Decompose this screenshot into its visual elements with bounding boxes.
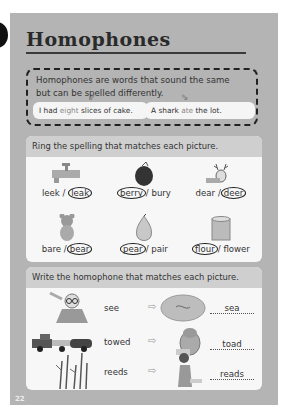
ringed-answer[interactable]: leak bbox=[68, 187, 92, 199]
pear-icon bbox=[129, 214, 159, 242]
homophone-row: see ⇨ sea bbox=[26, 291, 262, 327]
arrow-right-icon: ⇨ bbox=[148, 301, 156, 312]
ringed-answer[interactable]: flour bbox=[192, 243, 218, 255]
example-sentence: A shark ate the lot. bbox=[145, 102, 255, 119]
title-underline bbox=[26, 52, 246, 54]
sea-icon bbox=[160, 293, 206, 323]
given-word: see bbox=[104, 303, 119, 313]
highlighted-word: eight bbox=[60, 106, 79, 115]
ringed-answer[interactable]: berry bbox=[117, 187, 146, 199]
page-tab-marker bbox=[0, 22, 8, 48]
tap-icon bbox=[50, 162, 84, 186]
answer-field[interactable]: reads bbox=[210, 369, 254, 380]
pointer-arrow-icon: ⇘ bbox=[181, 92, 189, 102]
ring-item: dear /deer bbox=[182, 162, 260, 198]
pointer-arrow-icon: ⇙ bbox=[88, 92, 96, 102]
definition-text: Homophones are words that sound the same… bbox=[36, 74, 236, 100]
ring-item: flour/ flower bbox=[182, 214, 260, 254]
given-word: towed bbox=[104, 337, 130, 347]
berry-icon bbox=[129, 162, 159, 186]
page-number: 22 bbox=[15, 395, 25, 403]
exercise-instruction: Write the homophone that matches each pi… bbox=[26, 267, 262, 288]
example-sentence: I had eight slices of cake. bbox=[33, 102, 148, 119]
girl-reading-icon bbox=[174, 351, 204, 387]
reeds-icon bbox=[54, 351, 94, 389]
ringed-answer[interactable]: pear bbox=[120, 243, 146, 255]
exercise-instruction: Ring the spelling that matches each pict… bbox=[26, 136, 262, 157]
ring-item: leek / leak bbox=[28, 162, 106, 198]
arrow-right-icon: ⇨ bbox=[148, 335, 156, 346]
definition-box: Homophones are words that sound the same… bbox=[26, 68, 258, 126]
tow-truck-icon bbox=[30, 331, 96, 353]
highlighted-word: ate bbox=[181, 106, 193, 115]
homophone-row: reeds ⇨ reads bbox=[26, 355, 262, 390]
deer-icon bbox=[204, 162, 238, 186]
answer-field[interactable]: toad bbox=[210, 339, 254, 350]
ring-item: bare /bear bbox=[28, 214, 106, 254]
man-seeing-icon bbox=[48, 291, 88, 323]
given-word: reeds bbox=[104, 367, 128, 377]
ringed-answer[interactable]: bear bbox=[67, 243, 93, 255]
answer-field[interactable]: sea bbox=[210, 303, 254, 314]
arrow-right-icon: ⇨ bbox=[148, 365, 156, 376]
write-homophone-exercise: Write the homophone that matches each pi… bbox=[26, 267, 262, 390]
ringed-answer[interactable]: deer bbox=[221, 187, 247, 199]
ring-item: pear/ pair bbox=[105, 214, 183, 254]
ring-spelling-exercise: Ring the spelling that matches each pict… bbox=[26, 136, 262, 262]
teddy-bear-icon bbox=[52, 214, 82, 242]
page-title: Homophones bbox=[26, 28, 171, 50]
flour-bag-icon bbox=[206, 214, 236, 242]
ring-item: berry/ bury bbox=[105, 162, 183, 198]
